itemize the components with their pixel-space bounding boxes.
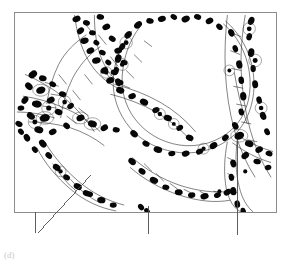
micrograph-frame: [14, 12, 277, 213]
figure-panel: (d): [0, 0, 294, 266]
panel-label: (d): [4, 250, 15, 261]
micrograph-image: [15, 13, 276, 212]
